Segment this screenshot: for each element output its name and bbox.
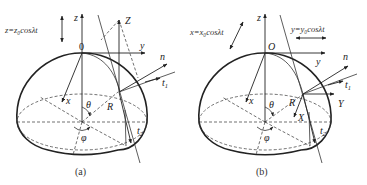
label-X-b: X [297, 112, 305, 123]
Z-dash2-a [119, 20, 138, 78]
label-Y-b: Y [338, 98, 345, 109]
panel-b: x=x₀cosλt y=y₀cosλt z O y n t1 Y X t2 x … [189, 12, 357, 178]
panel-a: z=z₀cosλt z 0 y Z n t1 t2 x R θ φ (a) [4, 12, 175, 178]
radius-t2-b [265, 122, 310, 146]
equation-y-b: y=y₀cosλt [290, 24, 325, 34]
phi-arc-a [74, 127, 90, 131]
t1-arrow-a [145, 78, 160, 82]
phi-arc-b [257, 127, 273, 131]
radius-x-dash-b [222, 97, 265, 122]
label-origin-a: 0 [79, 41, 84, 52]
Z-dash1-a [101, 20, 119, 40]
label-z-b: z [256, 12, 261, 23]
label-t2-a: t2 [137, 125, 144, 137]
caption-b: (b) [256, 166, 268, 178]
label-phi-b: φ [264, 132, 270, 143]
label-t1-a: t1 [162, 77, 168, 89]
label-t1-b: t1 [345, 79, 351, 91]
hemisphere-diagram: z=z₀cosλt z 0 y Z n t1 t2 x R θ φ (a) [0, 0, 367, 185]
meridian-b [265, 53, 303, 94]
label-phi-a: φ [81, 132, 87, 143]
label-n-a: n [160, 51, 165, 62]
radius-x-dash-a [40, 97, 82, 122]
vertical-down-a [125, 110, 126, 146]
label-theta-a: θ [86, 99, 91, 110]
radius-t2-a [82, 122, 126, 146]
label-R-a: R [106, 101, 113, 112]
label-t2-b: t2 [320, 125, 327, 137]
label-n-b: n [343, 51, 348, 62]
label-R-b: R [288, 97, 295, 108]
label-Z-a: Z [125, 15, 131, 26]
label-y-b: y [315, 56, 321, 67]
vertical-down-b [309, 112, 310, 146]
equation-z-a: z=z₀cosλt [4, 25, 38, 35]
caption-a: (a) [75, 166, 86, 178]
label-x-b: x [248, 95, 254, 106]
label-x-a: x [65, 95, 71, 106]
label-theta-b: θ [269, 99, 274, 110]
x-oscillation-arrow-b [230, 22, 243, 49]
label-z-a: z [73, 12, 78, 23]
label-y-a: y [139, 40, 145, 51]
label-origin-b: O [268, 41, 275, 52]
equation-x-b: x=x₀cosλt [189, 27, 224, 37]
